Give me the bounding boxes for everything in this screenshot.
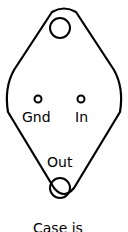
gnd-pin-icon xyxy=(35,96,42,103)
gnd-label: Gnd xyxy=(22,109,51,125)
in-label: In xyxy=(75,109,88,125)
caption: Case is xyxy=(33,220,83,232)
top-mounting-hole-icon xyxy=(50,18,70,38)
out-label: Out xyxy=(47,154,73,170)
in-pin-icon xyxy=(78,96,85,103)
to3-package-diagram: Gnd In Out Case is xyxy=(0,0,128,232)
